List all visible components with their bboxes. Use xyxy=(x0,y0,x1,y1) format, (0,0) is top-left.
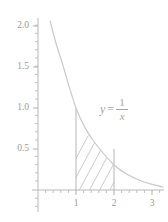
x-tick-label-1: 1 xyxy=(68,199,84,209)
x-tick-label-2: 2 xyxy=(106,199,122,209)
x-axis-major-ticks xyxy=(76,190,152,195)
equation-denominator: x xyxy=(120,110,125,122)
y-tick-label-1-5: 1.5 xyxy=(6,62,29,72)
equation-numerator: 1 xyxy=(119,97,125,109)
y-tick-label-0-5: 0.5 xyxy=(6,144,29,154)
y-axis-major-ticks xyxy=(33,26,38,149)
equation-equals-sign: = xyxy=(107,102,114,117)
x-tick-label-3: 3 xyxy=(144,199,160,209)
figure-plot-1-over-x: 2.0 1.5 1.0 0.5 1 2 3 y = 1 x xyxy=(0,0,168,222)
equation-fraction: 1 x xyxy=(116,97,128,122)
equation-annotation: y = 1 x xyxy=(100,97,128,122)
equation-lhs: y xyxy=(100,102,105,117)
y-tick-label-1-0: 1.0 xyxy=(6,103,29,113)
y-tick-label-2-0: 2.0 xyxy=(6,21,29,31)
